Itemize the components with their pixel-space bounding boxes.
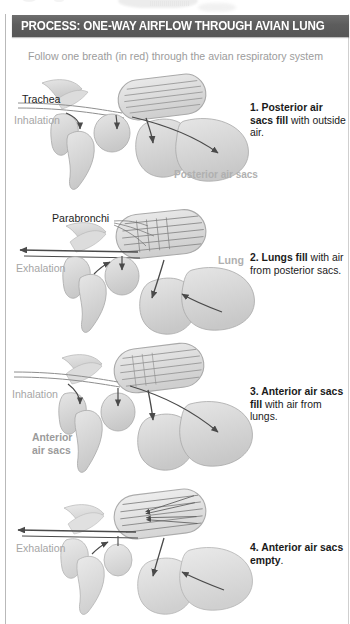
caption-4-bold: 4. Anterior air sacs empty (250, 542, 343, 566)
caption-step-2: 2. Lungs fill with air from posterior sa… (250, 252, 348, 277)
figure-subtitle: Follow one breath (in red) through the a… (28, 50, 323, 62)
figure-title: PROCESS: ONE-WAY AIRFLOW THROUGH AVIAN L… (21, 18, 325, 34)
figure-header-bar: PROCESS: ONE-WAY AIRFLOW THROUGH AVIAN L… (12, 15, 349, 37)
panel-3-illustration (6, 332, 266, 484)
label-breath-phase-3: Inhalation (12, 388, 58, 400)
label-posterior-air-sacs: Posterior air sacs (174, 169, 258, 180)
label-breath-phase-2: Exhalation (16, 262, 65, 274)
panel-step-2: Parabronchi Exhalation Lung 2. Lungs fil… (6, 200, 350, 335)
panel-step-3: Inhalation Anterior air sacs 3. Anterior… (6, 332, 350, 484)
figure-frame: PROCESS: ONE-WAY AIRFLOW THROUGH AVIAN L… (5, 14, 349, 624)
label-breath-phase-4: Exhalation (16, 542, 65, 554)
label-breath-phase-1: Inhalation (14, 114, 60, 126)
caption-4-rest: . (281, 555, 284, 566)
caption-step-3: 3. Anterior air sacs fill with air from … (250, 386, 348, 424)
caption-2-bold: 2. Lungs fill (250, 252, 308, 263)
label-trachea: Trachea (22, 93, 60, 105)
label-parabronchi: Parabronchi (52, 212, 109, 224)
panel-step-4: Exhalation 4. Anterior air sacs empty. (6, 480, 350, 624)
panel-1-illustration (6, 69, 266, 209)
label-anterior-air-sacs: Anterior air sacs (32, 432, 72, 457)
panel-step-1: Trachea Inhalation Posterior air sacs 1.… (6, 69, 350, 209)
caption-step-1: 1. Posterior air sacs fill with outside … (250, 102, 348, 140)
caption-step-4: 4. Anterior air sacs empty. (250, 542, 348, 567)
page-bleed-artifact (0, 0, 350, 14)
label-lung: Lung (218, 254, 244, 266)
